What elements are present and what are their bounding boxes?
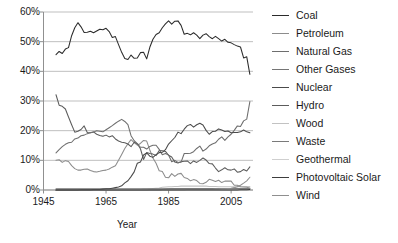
x-axis-tick-labels: 1945196519852005 [0,0,268,243]
chart-page: 60%50%40%30%20%10%0% 1945196519852005 Ye… [0,0,398,243]
legend-item[interactable]: Hydro [272,96,398,114]
legend-item-label: Nuclear [296,81,332,93]
legend-item-label: Hydro [296,99,324,111]
legend-item-label: Waste [296,135,325,147]
line-chart-figure: 60%50%40%30%20%10%0% 1945196519852005 Ye… [0,0,268,243]
legend-color-swatch-icon [272,105,289,106]
legend-item[interactable]: Wood [272,114,398,132]
legend-item[interactable]: Nuclear [272,78,398,96]
legend-color-swatch-icon [272,177,289,178]
legend-item-label: Wood [296,117,323,129]
legend-item[interactable]: Waste [272,132,398,150]
legend-item[interactable]: Natural Gas [272,42,398,60]
legend-item-label: Petroleum [296,27,344,39]
legend-item-label: Geothermal [296,153,351,165]
x-tick-label: 1985 [149,196,189,207]
legend-color-swatch-icon [272,141,289,142]
x-axis-title: Year [44,219,210,230]
legend-item[interactable]: Petroleum [272,24,398,42]
legend-item[interactable]: Other Gases [272,60,398,78]
legend-item-label: Other Gases [296,63,356,75]
x-tick-label: 2005 [211,196,251,207]
legend-item[interactable]: Wind [272,186,398,204]
legend-item-label: Photovoltaic Solar [296,171,381,183]
legend-color-swatch-icon [272,69,289,70]
legend-item[interactable]: Coal [272,6,398,24]
legend-item-label: Wind [296,189,320,201]
legend-item-label: Coal [296,9,318,21]
legend-item[interactable]: Geothermal [272,150,398,168]
chart-legend: CoalPetroleumNatural GasOther GasesNucle… [272,6,398,204]
legend-color-swatch-icon [272,159,289,160]
legend-color-swatch-icon [272,87,289,88]
legend-item-label: Natural Gas [296,45,352,57]
legend-color-swatch-icon [272,195,289,196]
legend-color-swatch-icon [272,15,289,16]
x-tick-label: 1945 [24,196,64,207]
x-tick-label: 1965 [86,196,126,207]
legend-item[interactable]: Photovoltaic Solar [272,168,398,186]
legend-color-swatch-icon [272,51,289,52]
legend-color-swatch-icon [272,33,289,34]
legend-color-swatch-icon [272,123,289,124]
